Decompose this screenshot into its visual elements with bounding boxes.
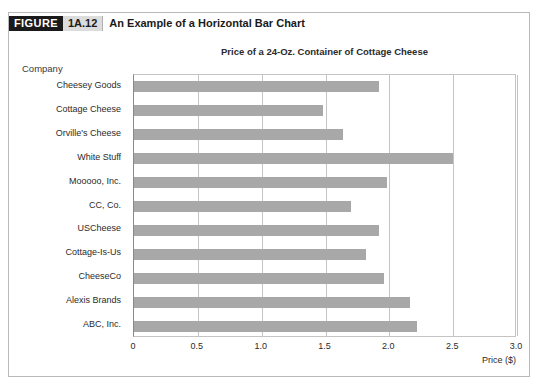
x-tick-label: 1.0 <box>254 341 267 351</box>
bar <box>134 249 366 260</box>
category-label: USCheese <box>77 223 121 233</box>
chart-title: Price of a 24-Oz. Container of Cottage C… <box>133 46 516 57</box>
bar <box>134 177 387 188</box>
x-tick-label: 0.5 <box>191 341 204 351</box>
x-tick-label: 2.0 <box>382 341 395 351</box>
category-label: CC, Co. <box>89 200 121 210</box>
category-label: Cottage Cheese <box>56 104 121 114</box>
bar-row <box>134 123 515 147</box>
bar-row <box>134 99 515 123</box>
gridline-3.0 <box>517 75 518 336</box>
bar-series <box>134 75 515 336</box>
x-axis-ticks: 00.51.01.52.02.53.0 <box>133 341 516 355</box>
category-label: Alexis Brands <box>66 295 121 305</box>
plot-area <box>133 74 516 337</box>
category-label: Cheesey Goods <box>56 80 121 90</box>
bar <box>134 297 410 308</box>
bar-row <box>134 147 515 171</box>
bar-row <box>134 314 515 338</box>
category-label: Cottage-Is-Us <box>65 247 121 257</box>
x-tick-label: 2.5 <box>446 341 459 351</box>
bar <box>134 129 343 140</box>
x-axis-title: Price ($) <box>0 355 516 365</box>
bar-row <box>134 218 515 242</box>
figure-header: FIGURE 1A.12 An Example of a Horizontal … <box>9 16 305 31</box>
bar <box>134 201 351 212</box>
category-label: ABC, Inc. <box>83 319 121 329</box>
bar <box>134 105 323 116</box>
category-label: Orville's Cheese <box>56 128 121 138</box>
category-labels: Cheesey GoodsCottage CheeseOrville's Che… <box>0 74 128 337</box>
category-label: CheeseCo <box>78 271 121 281</box>
x-tick-label: 1.5 <box>318 341 331 351</box>
bar-row <box>134 171 515 195</box>
bar-row <box>134 195 515 219</box>
bar <box>134 321 417 332</box>
bar-row <box>134 266 515 290</box>
y-axis-title: Company <box>22 63 63 74</box>
x-tick-label: 0 <box>130 341 135 351</box>
figure-caption: An Example of a Horizontal Bar Chart <box>103 16 305 31</box>
figure-label: FIGURE <box>9 16 63 31</box>
category-label: Mooooo, Inc. <box>69 176 121 186</box>
bar-row <box>134 75 515 99</box>
bar-row <box>134 290 515 314</box>
figure-page: FIGURE 1A.12 An Example of a Horizontal … <box>0 0 538 389</box>
bar <box>134 225 379 236</box>
bar <box>134 153 453 164</box>
x-tick-label: 3.0 <box>510 341 523 351</box>
figure-number: 1A.12 <box>63 16 103 31</box>
bar-row <box>134 242 515 266</box>
bar <box>134 81 379 92</box>
bar <box>134 273 384 284</box>
category-label: White Stuff <box>77 152 121 162</box>
